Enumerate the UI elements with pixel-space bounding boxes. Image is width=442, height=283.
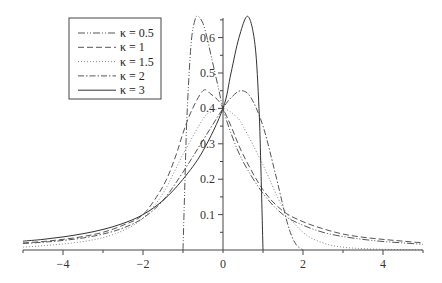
- legend-label: κ = 0.5: [120, 26, 154, 40]
- x-tick-label: −4: [57, 257, 70, 271]
- x-tick-label: 0: [220, 257, 226, 271]
- y-tick-label: 0.6: [200, 31, 215, 45]
- y-tick-label: 0.4: [200, 101, 215, 115]
- density-chart: −4−2024 0.10.20.30.40.50.6 κ = 0.5κ = 1κ…: [0, 0, 442, 283]
- x-tick-label: 4: [380, 257, 386, 271]
- x-tick-label: −2: [137, 257, 150, 271]
- y-tick-label: 0.5: [200, 66, 215, 80]
- y-ticks: 0.10.20.30.40.50.6: [200, 20, 223, 232]
- x-ticks: −4−2024: [23, 250, 423, 271]
- legend-label: κ = 2: [120, 69, 145, 83]
- x-tick-label: 2: [300, 257, 306, 271]
- legend: κ = 0.5κ = 1κ = 1.5κ = 2κ = 3: [69, 18, 161, 99]
- y-tick-label: 0.1: [200, 208, 215, 222]
- legend-label: κ = 3: [120, 83, 145, 97]
- y-tick-label: 0.2: [200, 172, 215, 186]
- legend-label: κ = 1.5: [120, 55, 154, 69]
- y-tick-label: 0.3: [200, 137, 215, 151]
- legend-label: κ = 1: [120, 40, 145, 54]
